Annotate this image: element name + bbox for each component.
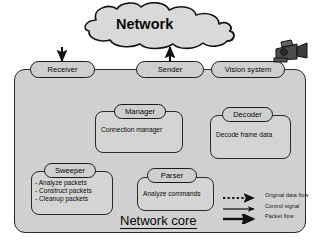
component-manager-title[interactable]: Manager (114, 104, 166, 119)
component-parser-title[interactable]: Parser (147, 168, 197, 183)
component-decoder-title[interactable]: Decoder (222, 107, 273, 122)
component-parser-body: Analyze commands (143, 190, 201, 198)
video-camera-icon (270, 36, 314, 66)
legend-thin-arrow-icon (221, 204, 263, 214)
component-parser-label: Parser (161, 171, 183, 180)
legend-label-original-data-flow: Original data flow (265, 192, 308, 198)
network-core-label: Network core (120, 213, 197, 229)
component-sweeper-body: - Analyze packets - Construct packets - … (35, 179, 92, 204)
legend: Original data flow Control signal (221, 193, 317, 225)
legend-label-packet-flow: Packet flow (265, 213, 294, 219)
legend-label-control-signal: Control signal (265, 203, 299, 209)
component-manager-label: Manager (125, 107, 155, 116)
component-decoder-label: Decoder (233, 110, 262, 119)
node-sender-label: Sender (158, 65, 183, 74)
network-cloud-label: Network (116, 16, 173, 32)
legend-item-packet-flow: Packet flow (221, 214, 317, 224)
component-sweeper-label: Sweeper (55, 166, 85, 175)
legend-thick-arrow-icon (221, 214, 263, 224)
legend-item-original-data-flow: Original data flow (221, 193, 317, 203)
node-receiver[interactable]: Receiver (30, 61, 95, 78)
legend-dotted-arrow-icon (221, 193, 263, 203)
node-sender[interactable]: Sender (136, 61, 204, 78)
component-sweeper-title[interactable]: Sweeper (44, 163, 96, 178)
component-manager-body: Connection manager (101, 126, 162, 134)
diagram-canvas: Network Receiver Sender Vision system Ma… (0, 0, 319, 251)
node-receiver-label: Receiver (48, 65, 78, 74)
component-decoder-body: Decode frame data (216, 131, 272, 139)
node-vision-system-label: Vision system (225, 65, 272, 74)
